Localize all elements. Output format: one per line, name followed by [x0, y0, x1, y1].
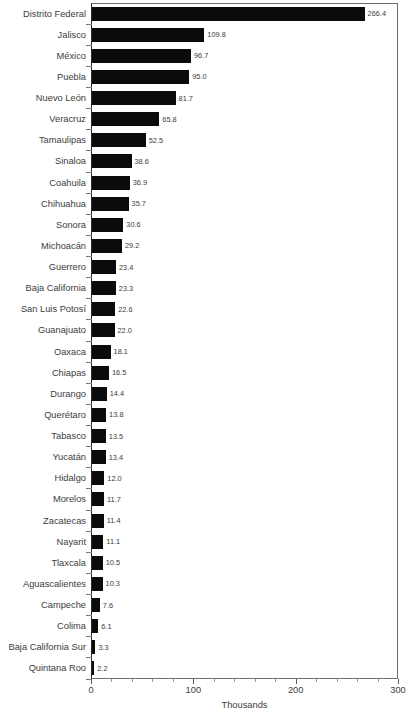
x-axis-tick-minor: [111, 679, 112, 682]
x-axis-tick-major: [398, 679, 399, 684]
bar-value-label: 95.0: [192, 72, 206, 81]
bar-row: Nayarit11.1: [0, 531, 408, 552]
bar: [92, 387, 107, 401]
bar: [92, 281, 116, 295]
bar-value-label: 16.5: [112, 368, 126, 377]
x-axis-tick-minor: [132, 679, 133, 682]
bar-row: Campeche7.6: [0, 595, 408, 616]
bar: [92, 514, 104, 528]
x-axis-tick-label: 200: [288, 685, 304, 696]
bar-value-label: 96.7: [194, 51, 208, 60]
bar-with-value: 23.4: [92, 260, 133, 274]
bar-row: Oaxaca18.1: [0, 341, 408, 362]
category-label: Baja California: [26, 283, 86, 294]
bar-with-value: 12.0: [92, 471, 122, 485]
bar-row: Guerrero23.4: [0, 257, 408, 278]
bar-row: Tabasco13.5: [0, 426, 408, 447]
bar-row: Puebla95.0: [0, 66, 408, 87]
bar-row: Chiapas16.5: [0, 362, 408, 383]
bar-row: Zacatecas11.4: [0, 510, 408, 531]
bar-with-value: 16.5: [92, 366, 126, 380]
bar: [92, 640, 95, 654]
bar: [92, 112, 159, 126]
bar: [92, 7, 365, 21]
bar-value-label: 11.7: [107, 495, 121, 504]
bar-row: Sinaloa38.6: [0, 151, 408, 172]
category-label: Hidalgo: [54, 473, 86, 484]
bar-value-label: 81.7: [179, 94, 193, 103]
category-label: San Luis Potosí: [21, 304, 86, 315]
bar-chart: Distrito Federal266.4Jalisco109.8México9…: [0, 0, 408, 717]
x-axis-tick-minor: [378, 679, 379, 682]
bar-with-value: 36.9: [92, 176, 147, 190]
category-label: Nuevo León: [36, 93, 86, 104]
bar: [92, 28, 204, 42]
bar: [92, 556, 103, 570]
bar-value-label: 36.9: [133, 178, 147, 187]
bar-value-label: 22.0: [118, 326, 132, 335]
bar-value-label: 12.0: [107, 474, 121, 483]
bar: [92, 323, 115, 337]
category-label: Sonora: [56, 219, 86, 230]
category-label: Baja California Sur: [8, 642, 86, 653]
x-axis-tick-label: 0: [88, 685, 93, 696]
bar-with-value: 30.6: [92, 218, 141, 232]
bar: [92, 450, 106, 464]
bar-value-label: 11.4: [107, 516, 121, 525]
bar-row: Nuevo León81.7: [0, 88, 408, 109]
bar-row: Distrito Federal266.4: [0, 3, 408, 24]
bar-value-label: 52.5: [149, 136, 163, 145]
bar-row: Guanajuato22.0: [0, 320, 408, 341]
bar: [92, 661, 94, 675]
bar-with-value: 35.7: [92, 197, 146, 211]
bar: [92, 408, 106, 422]
bar-value-label: 2.2: [97, 664, 107, 673]
bar-rows-container: Distrito Federal266.4Jalisco109.8México9…: [0, 3, 408, 679]
bar: [92, 176, 130, 190]
bar-row: Morelos11.7: [0, 489, 408, 510]
bar-with-value: 23.3: [92, 281, 133, 295]
x-axis-tick-label: 100: [186, 685, 202, 696]
bar-value-label: 30.6: [126, 220, 140, 229]
bar: [92, 218, 123, 232]
category-label: Aguascalientes: [23, 578, 86, 589]
bar: [92, 91, 176, 105]
bar-value-label: 65.8: [162, 115, 176, 124]
bar-value-label: 109.8: [207, 30, 226, 39]
category-label: Sinaloa: [55, 156, 86, 167]
bar-row: Veracruz65.8: [0, 109, 408, 130]
bar-value-label: 29.2: [125, 241, 139, 250]
category-label: Jalisco: [58, 29, 86, 40]
category-label: Zacatecas: [43, 515, 86, 526]
bar: [92, 154, 132, 168]
bar-value-label: 266.4: [368, 9, 387, 18]
category-label: Guanajuato: [38, 325, 86, 336]
bar-with-value: 13.8: [92, 408, 124, 422]
bar-value-label: 18.1: [114, 347, 128, 356]
bar-with-value: 2.2: [92, 661, 108, 675]
bar-row: Yucatán13.4: [0, 447, 408, 468]
bar-value-label: 11.1: [106, 537, 120, 546]
category-label: Colima: [57, 621, 86, 632]
bar-with-value: 7.6: [92, 598, 113, 612]
category-label: Tamaulipas: [39, 135, 86, 146]
category-label: Durango: [50, 388, 86, 399]
bar-with-value: 22.6: [92, 302, 133, 316]
bar-row: Michoacán29.2: [0, 235, 408, 256]
bar-with-value: 52.5: [92, 133, 163, 147]
bar: [92, 345, 111, 359]
bar-with-value: 29.2: [92, 239, 139, 253]
bar-value-label: 35.7: [132, 199, 146, 208]
category-label: Puebla: [57, 71, 86, 82]
bar-value-label: 13.8: [109, 410, 123, 419]
bar-with-value: 65.8: [92, 112, 177, 126]
x-axis: Thousands 0100200300: [91, 679, 398, 717]
bar-row: Quintana Roo2.2: [0, 658, 408, 679]
bar-row: Chihuahua35.7: [0, 193, 408, 214]
bar: [92, 366, 109, 380]
bar-row: Aguascalientes10.3: [0, 573, 408, 594]
category-label: Morelos: [53, 494, 86, 505]
bar-with-value: 38.6: [92, 154, 149, 168]
x-axis-tick-minor: [316, 679, 317, 682]
category-label: Chihuahua: [41, 198, 86, 209]
